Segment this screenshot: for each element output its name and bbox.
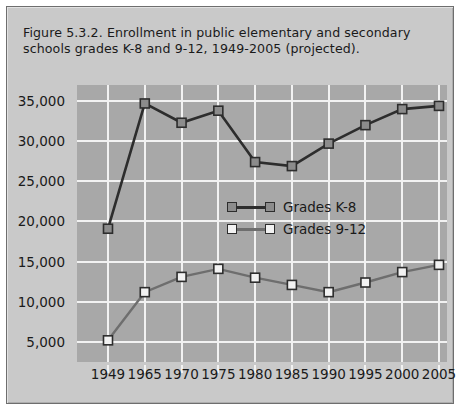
legend-marker <box>227 202 237 212</box>
data-point-marker <box>435 260 444 269</box>
data-point-marker <box>140 288 149 297</box>
y-axis-tick-label: 10,000 <box>18 294 65 310</box>
data-point-marker <box>361 278 370 287</box>
x-axis-tick-label: 1970 <box>164 366 198 382</box>
x-axis-tick-label: 1995 <box>348 366 382 382</box>
y-axis-tick-label: 30,000 <box>18 133 65 149</box>
legend-swatch <box>227 222 275 236</box>
x-axis-tick-label: 1949 <box>91 366 125 382</box>
y-axis-tick-label: 35,000 <box>18 93 65 109</box>
series-grades-9-12 <box>104 260 444 344</box>
x-axis-tick-label: 1980 <box>238 366 272 382</box>
data-point-marker <box>361 121 370 130</box>
y-axis-labels: 5,00010,00015,00020,00025,00030,00035,00… <box>7 85 71 362</box>
data-point-marker <box>177 272 186 281</box>
figure-frame: Figure 5.3.2. Enrollment in public eleme… <box>6 6 454 404</box>
y-axis-tick-label: 20,000 <box>18 213 65 229</box>
data-point-marker <box>140 99 149 108</box>
x-axis-tick-label: 2005 <box>422 366 456 382</box>
legend-item-grades-k8[interactable]: Grades K-8 <box>227 199 356 215</box>
legend-item-grades-9-12[interactable]: Grades 9-12 <box>227 221 366 237</box>
legend-label: Grades 9-12 <box>283 221 366 237</box>
data-point-marker <box>251 158 260 167</box>
data-point-marker <box>104 336 113 345</box>
data-point-marker <box>214 264 223 273</box>
data-point-marker <box>435 101 444 110</box>
legend-marker <box>227 224 237 234</box>
data-point-marker <box>251 273 260 282</box>
legend-label: Grades K-8 <box>283 199 356 215</box>
series-line <box>108 265 439 340</box>
legend-marker <box>265 202 275 212</box>
data-point-marker <box>324 139 333 148</box>
data-point-marker <box>398 105 407 114</box>
x-axis-tick-label: 1990 <box>311 366 345 382</box>
y-axis-tick-label: 25,000 <box>18 173 65 189</box>
data-point-marker <box>398 268 407 277</box>
data-point-marker <box>324 288 333 297</box>
x-axis-tick-label: 1965 <box>128 366 162 382</box>
data-point-marker <box>177 118 186 127</box>
legend-swatch <box>227 200 275 214</box>
x-axis-tick-label: 2000 <box>385 366 419 382</box>
x-axis-tick-label: 1975 <box>201 366 235 382</box>
y-axis-tick-label: 15,000 <box>18 254 65 270</box>
y-axis-tick-label: 5,000 <box>26 334 65 350</box>
x-axis-tick-label: 1985 <box>275 366 309 382</box>
data-point-marker <box>104 224 113 233</box>
legend-marker <box>265 224 275 234</box>
data-point-marker <box>214 106 223 115</box>
x-axis-labels: 1949196519701975198019851990199520002005 <box>77 365 447 389</box>
figure-caption: Figure 5.3.2. Enrollment in public eleme… <box>23 25 435 57</box>
data-point-marker <box>287 280 296 289</box>
data-point-marker <box>287 162 296 171</box>
